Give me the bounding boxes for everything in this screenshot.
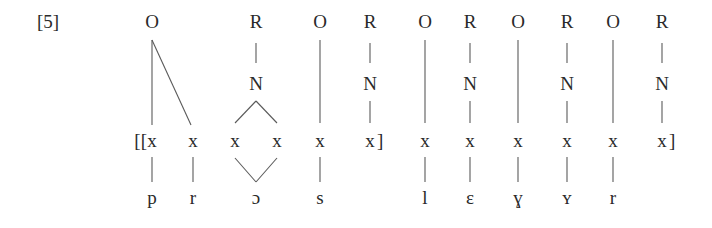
segment: l xyxy=(422,188,427,207)
nucleus-node: N xyxy=(249,74,263,93)
rhyme-node: R xyxy=(250,12,263,31)
nucleus-node: N xyxy=(655,74,669,93)
rhyme-node: R xyxy=(364,12,377,31)
skeletal-slot: x xyxy=(562,131,572,150)
rhyme-node: R xyxy=(561,12,574,31)
segment: ɛ xyxy=(466,188,474,207)
close-bracket: ] xyxy=(669,131,675,150)
skeletal-slot: x xyxy=(513,131,523,150)
example-number: [5] xyxy=(37,12,59,31)
skeletal-slot: x xyxy=(465,131,475,150)
skeletal-slot: x xyxy=(230,131,240,150)
onset-line xyxy=(152,40,191,125)
skeletal-slot: x xyxy=(608,131,618,150)
segment: r xyxy=(190,188,196,207)
open-bracket: [[ xyxy=(134,131,147,150)
onset-node: O xyxy=(145,12,159,31)
association-lines xyxy=(0,0,712,228)
segment: ʏ xyxy=(562,188,571,207)
close-bracket: ] xyxy=(377,131,383,150)
rhyme-node: R xyxy=(656,12,669,31)
syllable-structure-diagram: [5] O R O R O R O R O R N N N N N [[ x x… xyxy=(0,0,712,228)
segment: r xyxy=(610,188,616,207)
nucleus-node: N xyxy=(463,74,477,93)
skeletal-slot: x xyxy=(147,131,157,150)
segment: ɔ xyxy=(252,188,260,207)
onset-node: O xyxy=(511,12,525,31)
skeletal-slot: x xyxy=(420,131,430,150)
onset-node: O xyxy=(606,12,620,31)
long-vowel-line xyxy=(235,158,256,182)
nucleus-node: N xyxy=(560,74,574,93)
skeletal-slot: x xyxy=(188,131,198,150)
segment: s xyxy=(316,188,323,207)
skeletal-slot: x xyxy=(365,131,375,150)
nucleus-node: N xyxy=(363,74,377,93)
segment: p xyxy=(147,188,157,207)
skeletal-slot: x xyxy=(315,131,325,150)
rhyme-node: R xyxy=(464,12,477,31)
onset-node: O xyxy=(418,12,432,31)
nucleus-branch-line xyxy=(235,101,256,123)
skeletal-slot: x xyxy=(657,131,667,150)
segment: ɣ xyxy=(513,188,523,207)
long-vowel-line xyxy=(256,158,277,182)
onset-node: O xyxy=(313,12,327,31)
nucleus-branch-line xyxy=(256,101,277,123)
skeletal-slot: x xyxy=(272,131,282,150)
